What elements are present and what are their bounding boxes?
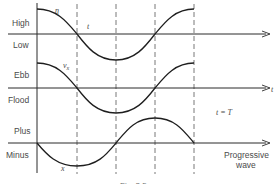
label-t-elevation: t [87,22,90,31]
label-t-equals-T: t = T [216,108,233,117]
label-progressive: Progressive [224,150,269,160]
period-dividers [77,4,194,174]
label-plus: Plus [14,126,31,136]
label-low: Low [13,40,29,50]
label-eta: η [55,6,59,15]
label-vx: vx [63,61,70,71]
panel-current: Ebb Flood vx t [8,61,274,113]
diagram: High Low η t Ebb Flood vx t t = T Plus M… [0,0,278,184]
label-minus: Minus [6,150,29,160]
figure-caption: Fig. 2.5 [120,181,147,184]
label-flood: Flood [8,95,30,105]
label-ebb: Ebb [14,70,29,80]
panel-elevation: High Low η t [8,6,270,60]
label-high: High [12,18,30,28]
progressive-wave-curve [37,118,194,166]
label-wave: wave [235,160,256,170]
label-x: x [60,164,65,173]
label-v-subscript: x [66,65,70,71]
label-t-current: t [271,85,274,94]
panel-progressive: Plus Minus x Progressive wave [6,118,270,173]
